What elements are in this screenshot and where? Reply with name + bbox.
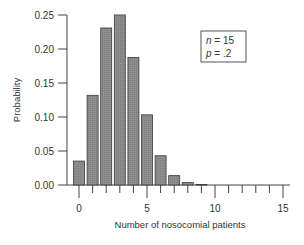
y-tick-label: 0.20 bbox=[35, 44, 55, 55]
x-tick-label: 10 bbox=[209, 203, 221, 214]
bar-6 bbox=[155, 156, 166, 185]
x-tick-label: 15 bbox=[277, 203, 289, 214]
y-tick-label: 0.15 bbox=[35, 78, 55, 89]
x-tick-label: 5 bbox=[144, 203, 150, 214]
x-axis-label: Number of nosocomial patients bbox=[115, 219, 246, 230]
y-axis: 0.000.050.100.150.200.25 bbox=[35, 10, 67, 191]
bar-series bbox=[74, 15, 207, 185]
bar-8 bbox=[182, 183, 193, 185]
bar-0 bbox=[74, 161, 85, 185]
binomial-probability-chart: 0.000.050.100.150.200.25 051015 n = 15 p… bbox=[0, 0, 304, 245]
x-tick-label: 0 bbox=[76, 203, 82, 214]
bar-4 bbox=[128, 57, 139, 185]
y-tick-label: 0.00 bbox=[35, 180, 55, 191]
y-tick-label: 0.25 bbox=[35, 10, 55, 21]
y-tick-label: 0.10 bbox=[35, 112, 55, 123]
x-axis: 051015 bbox=[67, 185, 290, 214]
legend-box: n = 15 p = .2 bbox=[201, 31, 246, 62]
bar-1 bbox=[87, 95, 98, 185]
y-axis-label: Probability bbox=[11, 78, 22, 123]
legend-line-p: p = .2 bbox=[205, 48, 232, 59]
legend-line-n: n = 15 bbox=[206, 35, 235, 46]
bar-7 bbox=[169, 176, 180, 185]
bar-5 bbox=[142, 115, 153, 185]
y-tick-label: 0.05 bbox=[35, 146, 55, 157]
bar-3 bbox=[114, 15, 125, 185]
bar-2 bbox=[101, 28, 112, 185]
